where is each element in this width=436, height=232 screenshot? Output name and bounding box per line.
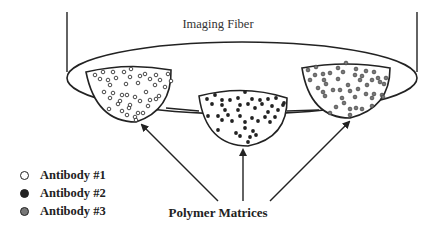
legend-item-antibody-2: Antibody #2 bbox=[20, 184, 106, 202]
legend-label: Antibody #1 bbox=[40, 168, 106, 183]
open-circle-icon bbox=[20, 171, 29, 180]
arrow-right bbox=[270, 122, 349, 201]
rim-line-right bbox=[287, 110, 319, 111]
arrow-left bbox=[142, 125, 218, 201]
legend-item-antibody-3: Antibody #3 bbox=[20, 202, 106, 220]
legend-label: Antibody #2 bbox=[40, 186, 106, 201]
matrix-center bbox=[199, 90, 287, 146]
legend-label: Antibody #3 bbox=[40, 204, 106, 219]
legend-item-antibody-1: Antibody #1 bbox=[20, 166, 106, 184]
legend: Antibody #1 Antibody #2 Antibody #3 bbox=[20, 166, 106, 220]
matrix-left bbox=[86, 66, 173, 122]
diagram-canvas: Imaging Fiber Polymer Matrices Antibody … bbox=[0, 0, 436, 232]
imaging-fiber-label: Imaging Fiber bbox=[0, 17, 436, 32]
filled-black-circle-icon bbox=[20, 189, 29, 198]
filled-gray-circle-icon bbox=[20, 207, 29, 216]
